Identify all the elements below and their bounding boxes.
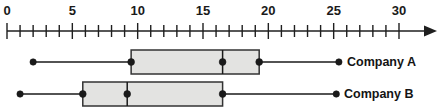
max-dot <box>333 91 339 97</box>
min-dot <box>30 59 36 65</box>
axis-tick-label: 5 <box>69 3 76 18</box>
q1-dot <box>79 91 86 98</box>
axis-tick-label: 0 <box>3 3 10 18</box>
box-whisker-chart: 051015202530 Company A Company B <box>0 0 444 111</box>
axis-arrow-icon <box>424 26 437 37</box>
max-dot <box>336 59 342 65</box>
axis-tick-label: 25 <box>326 3 340 18</box>
interquartile-box <box>83 82 223 106</box>
axis-tick-label: 10 <box>130 3 144 18</box>
series-label-company-a: Company A <box>347 55 416 69</box>
series-labels: Company A Company B <box>344 55 416 101</box>
box-plot-company-a <box>30 50 342 74</box>
median-dot <box>124 91 131 98</box>
series-label-company-b: Company B <box>344 87 413 101</box>
axis-tick-labels: 051015202530 <box>3 3 406 18</box>
q3-dot <box>219 91 226 98</box>
q3-dot <box>256 59 263 66</box>
interquartile-box <box>131 50 259 74</box>
x-axis: 051015202530 <box>3 3 437 39</box>
min-dot <box>17 91 23 97</box>
axis-tick-label: 15 <box>196 3 210 18</box>
axis-tick-label: 20 <box>261 3 275 18</box>
box-plot-company-b <box>17 82 340 106</box>
q1-dot <box>128 59 135 66</box>
median-dot <box>219 59 226 66</box>
axis-tick-label: 30 <box>392 3 406 18</box>
box-plot-series <box>17 50 342 106</box>
